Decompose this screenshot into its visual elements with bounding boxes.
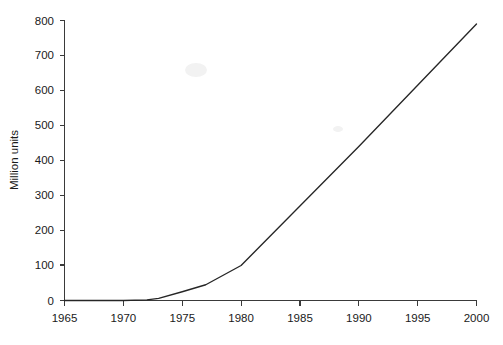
data-series-line (65, 24, 477, 301)
scan-artifacts (185, 63, 343, 132)
x-tick-label: 1995 (405, 312, 431, 324)
y-tick-label: 200 (35, 224, 54, 236)
x-tick-label: 1975 (170, 312, 196, 324)
y-tick-label: 800 (35, 15, 54, 27)
x-tick-label: 1990 (346, 312, 372, 324)
x-tick-label: 1970 (111, 312, 137, 324)
y-tick-label: 300 (35, 189, 54, 201)
y-tick-label: 700 (35, 49, 54, 61)
y-tick-label: 500 (35, 119, 54, 131)
x-tick-label: 2000 (464, 312, 490, 324)
chart-canvas: 800 700 600 500 400 300 200 100 0 1965 1… (0, 0, 503, 345)
y-axis-title: Million units (8, 130, 20, 190)
y-tick-label: 100 (35, 259, 54, 271)
y-tick-labels: 800 700 600 500 400 300 200 100 0 (35, 15, 54, 307)
x-tick-label: 1980 (228, 312, 254, 324)
y-tick-label: 600 (35, 84, 54, 96)
y-tick-label: 400 (35, 154, 54, 166)
x-tick-label: 1985 (287, 312, 313, 324)
x-tick-labels: 1965 1970 1975 1980 1985 1990 1995 2000 (52, 312, 490, 324)
x-axis-ticks (65, 301, 477, 306)
line-chart: 800 700 600 500 400 300 200 100 0 1965 1… (0, 0, 503, 345)
y-axis-ticks (60, 21, 65, 301)
x-tick-label: 1965 (52, 312, 78, 324)
y-tick-label: 0 (48, 295, 54, 307)
